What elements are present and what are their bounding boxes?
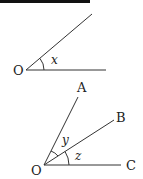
angle-label-x: x	[51, 53, 58, 67]
ray-label-a: A	[76, 80, 87, 95]
ray-label-b: B	[116, 110, 126, 125]
figure-1-angle-x: O x	[13, 14, 106, 78]
figure-2-angles-y-z: O A B C y z	[31, 80, 136, 178]
ray-upper	[26, 14, 92, 70]
vertex-label-o: O	[13, 63, 24, 78]
ray-label-c: C	[126, 158, 136, 173]
vertex-label-o: O	[31, 163, 42, 178]
angle-label-y: y	[61, 133, 69, 147]
ray-oa	[44, 97, 78, 165]
angle-arc-z	[65, 152, 69, 166]
angle-arc-y	[51, 151, 58, 156]
angle-label-z: z	[74, 149, 82, 163]
angle-diagrams: O x O A B C y z	[0, 0, 143, 179]
angle-arc-x	[40, 59, 44, 71]
